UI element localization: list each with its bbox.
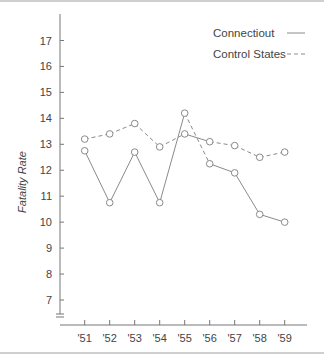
connecticut-line-segment — [185, 113, 210, 164]
connecticut-marker — [81, 147, 88, 154]
control-states-line-segment — [160, 134, 185, 147]
connecticut-marker — [256, 211, 263, 218]
y-tick-label: 9 — [46, 242, 52, 254]
control-states-line-segment — [235, 146, 260, 158]
control-states-marker — [81, 136, 88, 143]
connecticut-line-segment — [85, 151, 110, 203]
line-chart: 7891011121314151617'51'52'53'54'55'56'57… — [0, 0, 324, 362]
y-tick-label: 16 — [40, 60, 52, 72]
y-tick-label: 14 — [40, 112, 52, 124]
control-states-line-segment — [260, 152, 285, 157]
y-tick-label: 8 — [46, 268, 52, 280]
x-tick-label: '59 — [278, 332, 292, 344]
control-states-marker — [281, 149, 288, 156]
y-tick-label: 11 — [41, 190, 52, 202]
bottom-border — [0, 352, 324, 354]
y-axis-label: Fatality Rate — [16, 151, 28, 213]
legend-label: Control States — [213, 48, 286, 60]
y-tick-label: 10 — [40, 216, 52, 228]
connecticut-line-segment — [235, 173, 260, 215]
series-lines — [81, 110, 288, 226]
y-tick-label: 13 — [40, 138, 52, 150]
x-tick-label: '52 — [103, 332, 117, 344]
y-tick-label: 7 — [46, 294, 52, 306]
connecticut-line-segment — [260, 214, 285, 222]
connecticut-marker — [156, 199, 163, 206]
connecticut-marker — [281, 219, 288, 226]
control-states-marker — [131, 120, 138, 127]
y-tick-label: 17 — [40, 35, 52, 47]
connecticut-marker — [106, 199, 113, 206]
control-states-marker — [256, 154, 263, 161]
x-tick-label: '51 — [78, 332, 92, 344]
control-states-marker — [206, 138, 213, 145]
control-states-line-segment — [135, 124, 160, 147]
connecticut-line-segment — [135, 152, 160, 203]
x-tick-label: '55 — [178, 332, 192, 344]
connecticut-marker — [181, 110, 188, 117]
legend-label: Connectiout — [213, 27, 275, 39]
control-states-line-segment — [110, 124, 135, 134]
axes: 7891011121314151617'51'52'53'54'55'56'57… — [40, 14, 307, 344]
connecticut-marker — [131, 149, 138, 156]
x-tick-label: '53 — [128, 332, 142, 344]
connecticut-marker — [206, 160, 213, 167]
y-tick-label: 15 — [40, 86, 52, 98]
control-states-marker — [106, 131, 113, 138]
y-tick-label: 12 — [40, 164, 52, 176]
x-tick-label: '54 — [153, 332, 167, 344]
control-states-line-segment — [85, 134, 110, 139]
control-states-marker — [231, 142, 238, 149]
legend: ConnectioutControl States — [213, 27, 305, 60]
connecticut-marker — [231, 170, 238, 177]
control-states-marker — [181, 131, 188, 138]
x-tick-label: '58 — [253, 332, 267, 344]
connecticut-line-segment — [210, 164, 235, 173]
x-tick-label: '56 — [203, 332, 217, 344]
control-states-line-segment — [185, 134, 210, 142]
x-tick-label: '57 — [228, 332, 242, 344]
connecticut-line-segment — [160, 113, 185, 203]
connecticut-line-segment — [110, 152, 135, 203]
control-states-marker — [156, 144, 163, 151]
